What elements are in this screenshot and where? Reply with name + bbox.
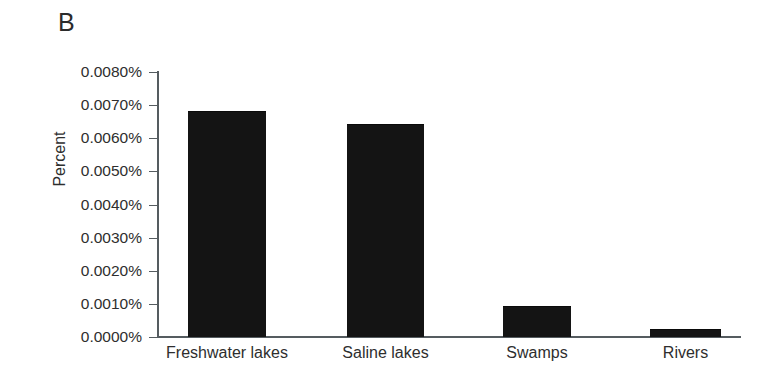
y-axis-tick-label: 0.0000% bbox=[42, 329, 142, 345]
y-axis-tick bbox=[149, 171, 158, 172]
bar bbox=[503, 306, 571, 337]
y-axis-tick bbox=[149, 304, 158, 305]
y-axis-tick-label: 0.0010% bbox=[42, 296, 142, 312]
y-axis-tick-label: 0.0040% bbox=[42, 197, 142, 213]
y-axis-tick-label: 0.0020% bbox=[42, 263, 142, 279]
y-axis-tick-label: 0.0050% bbox=[42, 164, 142, 180]
x-axis-label: Freshwater lakes bbox=[166, 345, 288, 361]
y-axis-tick-label: 0.0080% bbox=[42, 64, 142, 80]
y-axis-tick-label: 0.0070% bbox=[42, 97, 142, 113]
y-axis-tick bbox=[149, 205, 158, 206]
x-axis-label: Saline lakes bbox=[342, 345, 428, 361]
x-axis-label: Swamps bbox=[506, 345, 567, 361]
y-axis-tick bbox=[149, 72, 158, 73]
bar bbox=[347, 124, 424, 337]
y-axis-tick bbox=[149, 271, 158, 272]
x-axis-label: Rivers bbox=[663, 345, 708, 361]
panel-label: B bbox=[58, 10, 75, 35]
y-axis-tick bbox=[149, 238, 158, 239]
y-axis-tick bbox=[149, 337, 158, 338]
y-axis-tick bbox=[149, 138, 158, 139]
y-axis-tick bbox=[149, 105, 158, 106]
bar bbox=[650, 329, 721, 337]
bar bbox=[188, 111, 266, 337]
y-axis-tick-label: 0.0030% bbox=[42, 230, 142, 246]
chart-figure: B Percent 0.0080%0.0070%0.0060%0.0050%0.… bbox=[0, 0, 765, 386]
y-axis-tick-label: 0.0060% bbox=[42, 131, 142, 147]
plot-area bbox=[158, 72, 740, 337]
